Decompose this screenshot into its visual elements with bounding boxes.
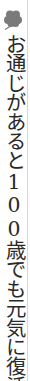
four-leaf-clover-icon — [3, 9, 23, 31]
vertical-headline-column: お通じがあると100歳でも元気に復活 — [0, 0, 30, 381]
divider-rule — [27, 0, 28, 381]
headline-text: お通じがあると100歳でも元気に復活 — [2, 34, 26, 380]
